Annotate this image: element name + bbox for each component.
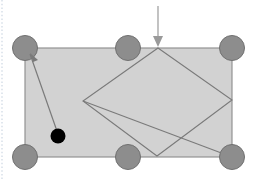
pocket-top-middle — [116, 36, 141, 61]
pocket-bottom-middle — [116, 145, 141, 170]
down-arrow-icon — [153, 36, 163, 47]
pocket-bottom-right — [220, 145, 245, 170]
diagram-svg — [0, 0, 256, 181]
figure-canvas — [0, 0, 256, 181]
cue-ball — [51, 129, 66, 144]
pocket-bottom-left — [13, 145, 38, 170]
pocket-top-right — [220, 36, 245, 61]
